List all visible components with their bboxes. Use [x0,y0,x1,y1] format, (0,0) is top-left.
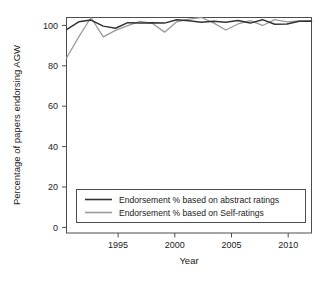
x-tick-label: 2010 [278,240,298,250]
series-group [67,18,312,59]
y-tick-label: 100 [43,21,58,31]
y-axis-ticks [62,25,67,227]
legend-label-abstract-ratings: Endorsement % based on abstract ratings [119,195,279,205]
x-tick-label: 2005 [221,240,241,250]
series-line-abstract-ratings [67,20,312,30]
chart-figure: 0 20 40 60 80 100 1995 2000 2005 2010 Ye… [0,0,326,283]
line-chart: 0 20 40 60 80 100 1995 2000 2005 2010 Ye… [0,0,326,283]
y-axis-title: Percentage of papers endorsing AGW [11,45,22,205]
x-axis-tick-labels: 1995 2000 2005 2010 [108,240,298,250]
legend-label-self-ratings: Endorsement % based on Self-ratings [119,208,264,218]
y-tick-label: 20 [48,182,58,192]
y-tick-label: 40 [48,142,58,152]
y-axis-tick-labels: 0 20 40 60 80 100 [43,21,58,233]
chart-legend: Endorsement % based on abstract ratings … [77,190,306,223]
x-tick-label: 2000 [165,240,185,250]
x-axis-ticks [118,233,288,238]
x-tick-label: 1995 [108,240,128,250]
y-tick-label: 0 [53,223,58,233]
y-tick-label: 60 [48,101,58,111]
x-axis-title: Year [179,255,198,266]
y-tick-label: 80 [48,61,58,71]
